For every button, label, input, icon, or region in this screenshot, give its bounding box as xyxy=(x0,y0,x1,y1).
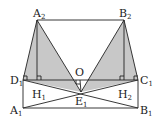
right-angle-mark-o xyxy=(76,80,80,84)
label-a1: A1 xyxy=(9,104,22,118)
label-h2: H2 xyxy=(118,88,132,102)
label-o: O xyxy=(75,66,84,79)
shaded-triangle-b2-c1-e1 xyxy=(81,20,138,92)
label-b2: B2 xyxy=(119,7,132,21)
label-h1: H1 xyxy=(32,88,46,102)
label-b1: B1 xyxy=(140,104,153,118)
label-d1: D1 xyxy=(10,74,23,88)
label-e1: E1 xyxy=(75,95,88,109)
label-a2: A2 xyxy=(32,7,45,21)
geometry-figure: A2 B2 D1 C1 A1 B1 H1 H2 O E1 xyxy=(0,0,157,121)
label-c1: C1 xyxy=(140,74,153,88)
shaded-triangle-a2-d1-e1 xyxy=(23,20,81,92)
